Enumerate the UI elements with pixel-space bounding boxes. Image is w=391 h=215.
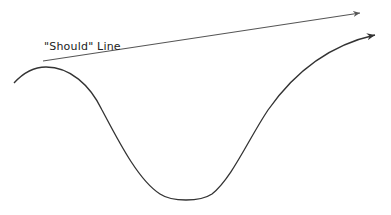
should-line (43, 13, 360, 61)
diagram-canvas (0, 0, 391, 215)
actual-curve (14, 35, 375, 200)
should-line-label: "Should" Line (44, 40, 121, 53)
